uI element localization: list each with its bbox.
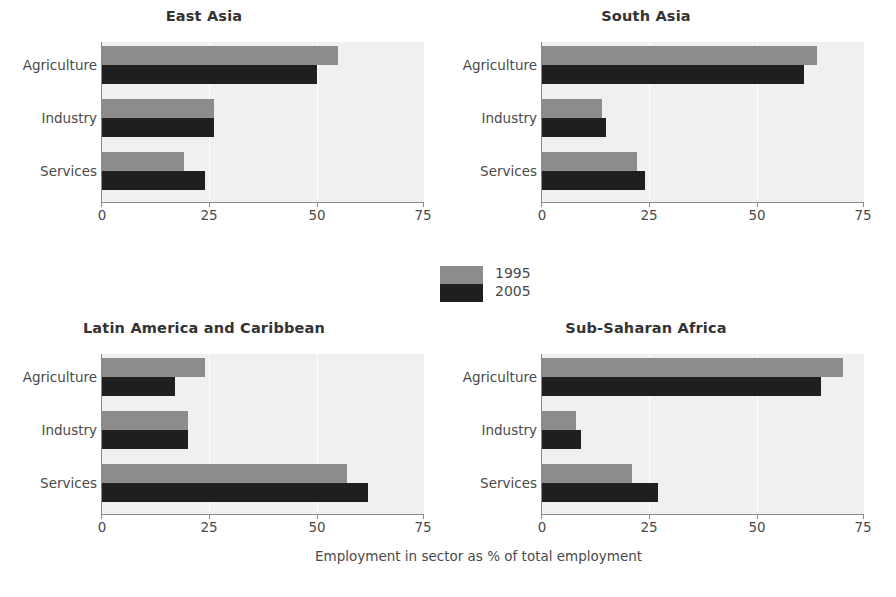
x-tick-label-50: 50 — [308, 519, 325, 535]
category-label-industry: Industry — [0, 422, 97, 438]
category-label-agriculture: Agriculture — [440, 369, 537, 385]
x-tick-label-50: 50 — [308, 207, 325, 223]
x-axis-line — [101, 514, 424, 515]
y-axis-line — [541, 354, 542, 514]
bar-industry-2005 — [102, 430, 188, 449]
category-label-agriculture: Agriculture — [0, 57, 97, 73]
plot-area — [102, 42, 424, 202]
legend-label-2005: 2005 — [495, 283, 531, 299]
category-label-industry: Industry — [440, 422, 537, 438]
bar-agriculture-1995 — [102, 46, 338, 65]
bar-agriculture-1995 — [542, 46, 817, 65]
category-label-industry: Industry — [440, 110, 537, 126]
panel-latin-america-and-caribbean: Latin America and Caribbean 0 25 50 75 A… — [0, 320, 448, 560]
x-tick-label-25: 25 — [640, 207, 657, 223]
x-tick-label-25: 25 — [200, 519, 217, 535]
plot-area — [542, 354, 864, 514]
panel-title: South Asia — [422, 8, 870, 24]
panel-title: Latin America and Caribbean — [0, 320, 428, 336]
x-tick-label-0: 0 — [538, 207, 547, 223]
bar-agriculture-1995 — [102, 358, 205, 377]
x-tick-label-0: 0 — [538, 519, 547, 535]
chart-legend: 1995 2005 — [440, 266, 600, 306]
bar-services-2005 — [542, 171, 645, 190]
category-label-agriculture: Agriculture — [0, 369, 97, 385]
gridline-50 — [317, 42, 318, 202]
bar-agriculture-2005 — [542, 65, 804, 84]
bar-services-1995 — [102, 152, 184, 171]
x-tick-label-50: 50 — [748, 519, 765, 535]
category-label-industry: Industry — [0, 110, 97, 126]
bar-services-1995 — [542, 464, 632, 483]
x-axis-caption: Employment in sector as % of total emplo… — [315, 548, 642, 564]
bar-services-1995 — [102, 464, 347, 483]
category-label-services: Services — [440, 475, 537, 491]
x-tick-label-75: 75 — [854, 207, 871, 223]
bar-industry-2005 — [542, 430, 581, 449]
bar-industry-1995 — [102, 99, 214, 118]
bar-industry-1995 — [542, 411, 576, 430]
y-axis-line — [101, 42, 102, 202]
bar-industry-2005 — [102, 118, 214, 137]
x-axis-line — [101, 202, 424, 203]
bar-services-1995 — [542, 152, 637, 171]
bar-agriculture-2005 — [542, 377, 821, 396]
x-tick-label-75: 75 — [854, 519, 871, 535]
legend-swatch-1995 — [440, 266, 483, 284]
plot-area — [542, 42, 864, 202]
panel-title: Sub-Saharan Africa — [422, 320, 870, 336]
bar-industry-2005 — [542, 118, 606, 137]
bar-industry-1995 — [102, 411, 188, 430]
x-tick-label-25: 25 — [640, 519, 657, 535]
bar-agriculture-2005 — [102, 65, 317, 84]
bar-industry-1995 — [542, 99, 602, 118]
y-axis-line — [101, 354, 102, 514]
y-axis-line — [541, 42, 542, 202]
legend-swatch-2005 — [440, 284, 483, 302]
panel-south-asia: South Asia 0 25 50 75 Agriculture Indust… — [440, 8, 896, 248]
bar-agriculture-1995 — [542, 358, 843, 377]
panel-east-asia: East Asia 0 25 50 75 Agriculture Industr… — [0, 8, 448, 248]
x-tick-label-75: 75 — [414, 519, 431, 535]
panel-title: East Asia — [0, 8, 428, 24]
legend-label-1995: 1995 — [495, 265, 531, 281]
bar-services-2005 — [542, 483, 658, 502]
panel-sub-saharan-africa: Sub-Saharan Africa 0 25 50 75 Agricultur… — [440, 320, 896, 560]
plot-area — [102, 354, 424, 514]
x-tick-label-0: 0 — [98, 519, 107, 535]
x-tick-label-0: 0 — [98, 207, 107, 223]
figure-employment-by-sector: East Asia 0 25 50 75 Agriculture Industr… — [0, 0, 896, 597]
bar-services-2005 — [102, 483, 368, 502]
category-label-services: Services — [0, 163, 97, 179]
x-axis-line — [541, 202, 864, 203]
bar-services-2005 — [102, 171, 205, 190]
x-axis-line — [541, 514, 864, 515]
category-label-agriculture: Agriculture — [440, 57, 537, 73]
category-label-services: Services — [440, 163, 537, 179]
x-tick-label-50: 50 — [748, 207, 765, 223]
x-tick-label-25: 25 — [200, 207, 217, 223]
x-tick-label-75: 75 — [414, 207, 431, 223]
category-label-services: Services — [0, 475, 97, 491]
bar-agriculture-2005 — [102, 377, 175, 396]
